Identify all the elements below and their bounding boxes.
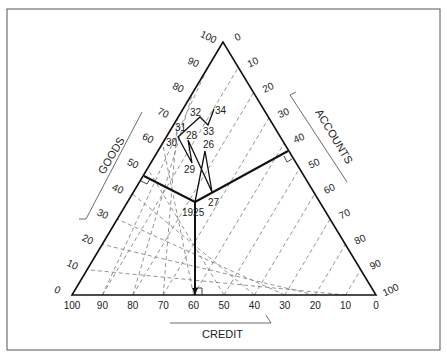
- goods-tick: 80: [171, 80, 186, 95]
- label-33: 33: [203, 126, 215, 137]
- credit-tick: 60: [188, 300, 200, 311]
- accounts-label: ACCOUNTS: [313, 107, 355, 166]
- grid-line: [117, 219, 284, 295]
- accounts-tick: 80: [353, 232, 368, 247]
- goods-tick: 90: [186, 55, 201, 70]
- accounts-tick: 30: [276, 105, 291, 120]
- accounts-tick: 0: [233, 30, 243, 43]
- credit-label: CREDIT: [202, 328, 243, 340]
- right-angle-markers: [141, 156, 292, 295]
- label-26: 26: [203, 139, 215, 150]
- dashed-grid: [87, 67, 361, 295]
- goods-tick: 60: [141, 131, 156, 146]
- goods-tick: 20: [80, 232, 95, 247]
- credit-tick: 30: [279, 300, 291, 311]
- label-29: 29: [184, 164, 196, 175]
- accounts-tick: 40: [291, 131, 306, 146]
- grid-line: [224, 169, 300, 296]
- goods-tick: 100: [199, 28, 219, 45]
- goods-tick: 70: [156, 105, 171, 120]
- label-32: 32: [190, 107, 202, 118]
- grid-line: [315, 244, 345, 295]
- accounts-tick: 100: [381, 281, 401, 298]
- figure-frame: [7, 9, 440, 350]
- credit-tick: 90: [97, 300, 109, 311]
- goods-tick: 40: [111, 181, 126, 196]
- credit-tick: 80: [127, 300, 139, 311]
- label-30: 30: [166, 137, 178, 148]
- credit-tick: 0: [373, 300, 379, 311]
- goods-tick: 10: [65, 257, 80, 272]
- grid-line: [148, 169, 225, 296]
- accounts-tick: 50: [307, 156, 322, 171]
- goods-label: GOODS: [95, 135, 126, 176]
- goods-tick: 30: [95, 207, 110, 222]
- accounts-tick: 60: [322, 181, 337, 196]
- label-28: 28: [186, 130, 198, 141]
- grid-line: [285, 219, 330, 295]
- credit-axis-title: CREDIT: [170, 315, 271, 340]
- label-27: 27: [208, 197, 220, 208]
- accounts-tick: 10: [245, 55, 260, 70]
- ternary-diagram: 1925 26 27 28 29 30 31 32 33 34 01020304…: [0, 0, 447, 356]
- grid-line: [346, 270, 361, 295]
- accounts-tick-labels: 0102030405060708090100: [233, 30, 401, 298]
- grid-line: [87, 270, 346, 295]
- credit-tick: 70: [158, 300, 170, 311]
- goods-tick-labels: 0102030405060708090100: [53, 28, 219, 296]
- triangle-outline: [72, 42, 376, 295]
- label-1925: 1925: [182, 207, 205, 218]
- label-34: 34: [215, 105, 227, 116]
- accounts-tick: 70: [337, 206, 352, 221]
- grid-line: [254, 194, 314, 295]
- credit-tick-labels: 1009080706050403020100: [64, 300, 380, 311]
- credit-tick: 20: [310, 300, 322, 311]
- accounts-tick: 90: [368, 257, 383, 272]
- goods-tick: 50: [126, 156, 141, 171]
- accounts-tick: 20: [261, 80, 276, 95]
- credit-tick: 10: [340, 300, 352, 311]
- credit-tick: 100: [64, 300, 81, 311]
- label-31: 31: [175, 122, 187, 133]
- goods-tick: 0: [53, 284, 63, 297]
- credit-tick: 50: [218, 300, 230, 311]
- credit-tick: 40: [249, 300, 261, 311]
